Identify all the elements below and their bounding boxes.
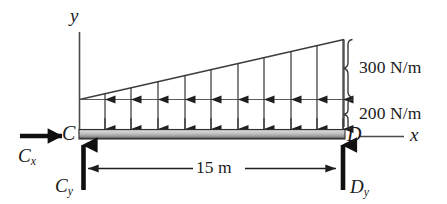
reaction-cx-sub: x <box>31 155 36 168</box>
reaction-label-cy: Cy <box>55 176 73 198</box>
distributed-load-outline <box>80 40 345 128</box>
y-axis-label: y <box>70 6 78 25</box>
x-axis-label: x <box>410 125 418 144</box>
reaction-dy-base: D <box>350 176 364 197</box>
upper-load-arrows <box>105 40 343 100</box>
load-label-200: 200 N/m <box>359 105 421 123</box>
load-label-300: 300 N/m <box>359 59 421 77</box>
load-brace-300 <box>343 40 352 98</box>
reaction-cy-base: C <box>55 175 68 196</box>
reaction-cx-base: C <box>18 145 31 166</box>
span-dimension-label: 15 m <box>196 159 232 177</box>
reaction-label-cx: Cx <box>18 146 36 168</box>
beam <box>79 130 345 140</box>
beam-free-body-diagram: y x C D 300 N/m 200 N/m 15 m Cx Cy Dy <box>0 0 447 204</box>
reaction-label-dy: Dy <box>350 177 369 199</box>
lower-load-arrows <box>105 100 343 130</box>
reaction-dy-sub: y <box>364 186 369 199</box>
reaction-cy-sub: y <box>68 185 73 198</box>
point-label-c: C <box>62 123 75 143</box>
point-label-d: D <box>347 124 361 144</box>
